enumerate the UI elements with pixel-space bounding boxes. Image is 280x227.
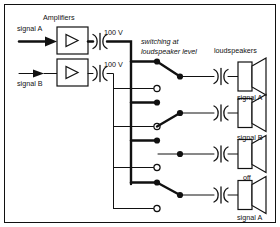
amplifier-a[interactable] [57, 27, 88, 54]
line-voltage-b-label: 100 V [104, 60, 123, 69]
switch-1-spdt-signal-a[interactable] [154, 58, 183, 91]
line-voltage-a-label: 100 V [104, 28, 123, 37]
input-arrow-a-icon [19, 37, 57, 47]
diagram-canvas: 100 V 100 V [0, 0, 280, 227]
switching-note-line-2: loudspeaker level [141, 47, 197, 56]
speaker-1-label: signal A [237, 93, 262, 102]
switch-4-blade [157, 183, 180, 196]
switch-1-blade [157, 62, 180, 77]
switch-1-contact-b [154, 85, 160, 91]
switch-2-blade [157, 113, 180, 127]
loudspeaker-1 [238, 58, 266, 95]
transformer-icon-stepdown-4 [214, 187, 228, 203]
amplifiers-title: Amplifiers [43, 13, 75, 22]
transformer-icon-stepdown-2 [214, 105, 228, 121]
switch-3-contact-b [154, 164, 160, 170]
switching-note-line-1: switching at [141, 37, 180, 46]
loudspeakers-title: loudspeakers [214, 46, 257, 55]
speaker-4-label: signal A [237, 213, 262, 222]
input-label-signal-b: signal B [17, 79, 43, 88]
switch-4-spdt-signal-a[interactable] [154, 179, 183, 211]
speaker-2-label: signal B [237, 133, 263, 142]
switch-2-contact-a [154, 99, 160, 105]
switch-4-contact-b [154, 205, 160, 211]
loudspeaker-4 [238, 177, 266, 214]
input-label-signal-a: signal A [17, 24, 42, 33]
switch-2-spdt-signal-b[interactable] [154, 99, 183, 129]
transformer-icon-stepdown-3 [214, 146, 228, 162]
switch-3-spdt-off[interactable] [154, 137, 183, 170]
transformer-icon-stepdown-1 [214, 69, 228, 85]
switch-3-contact-a [154, 137, 160, 143]
amplifier-b[interactable] [57, 59, 88, 86]
input-arrow-b-icon [19, 70, 57, 78]
speaker-3-label: off [243, 173, 251, 182]
audio-distribution-schematic: 100 V 100 V [0, 0, 280, 227]
